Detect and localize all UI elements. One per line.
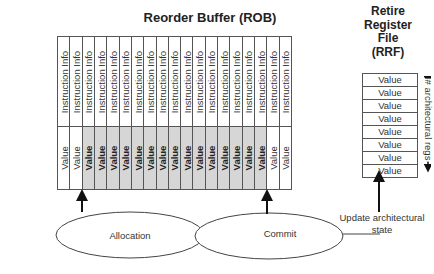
allocation-label: Allocation [90, 230, 170, 241]
update-architectural-state-label: Update architectural state [332, 212, 432, 236]
architectural-regs-label: # architectural regs [423, 79, 434, 162]
commit-label: Commit [245, 228, 315, 239]
